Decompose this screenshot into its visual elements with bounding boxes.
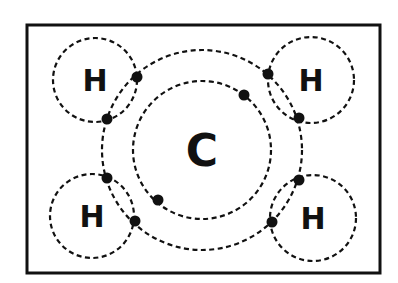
hydrogen-label-bottom-left: H bbox=[79, 199, 104, 234]
electron-dot bbox=[132, 72, 143, 83]
electron-dot bbox=[263, 69, 274, 80]
electron-dot bbox=[102, 173, 113, 184]
electron-dot bbox=[130, 216, 141, 227]
hydrogen-label-top-left: H bbox=[82, 63, 107, 98]
electron-dot bbox=[294, 175, 305, 186]
electron-dot bbox=[153, 195, 164, 206]
methane-diagram: C H H H H bbox=[0, 0, 398, 283]
atom-labels: C H H H H bbox=[79, 63, 325, 236]
carbon-label: C bbox=[186, 125, 218, 176]
electron-dot bbox=[239, 90, 250, 101]
electron-dot bbox=[294, 113, 305, 124]
hydrogen-label-bottom-right: H bbox=[300, 201, 325, 236]
hydrogen-label-top-right: H bbox=[298, 63, 323, 98]
electron-dot bbox=[267, 217, 278, 228]
electron-dot bbox=[102, 114, 113, 125]
